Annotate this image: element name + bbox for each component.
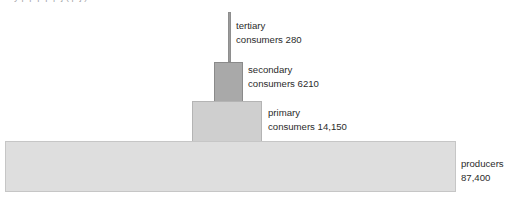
label-primary-line2: consumers 14,150	[268, 120, 347, 134]
label-secondary-line2: consumers 6210	[248, 77, 319, 91]
label-tertiary-line1: tertiary	[236, 19, 302, 33]
bar-producers	[5, 141, 456, 192]
cut-off-caption-text: y p p p p p j ( p j )	[14, 0, 514, 2]
label-producers-line2: 87,400	[461, 171, 504, 185]
label-producers: producers 87,400	[461, 157, 504, 184]
label-tertiary-line2: consumers 280	[236, 33, 302, 47]
bar-secondary-consumers	[214, 62, 243, 102]
bar-tertiary-consumers	[228, 12, 231, 62]
bar-primary-consumers	[192, 101, 262, 142]
label-primary-line1: primary	[268, 106, 347, 120]
label-secondary-line1: secondary	[248, 63, 319, 77]
label-secondary-consumers: secondary consumers 6210	[248, 63, 319, 90]
label-tertiary-consumers: tertiary consumers 280	[236, 19, 302, 46]
energy-pyramid-figure: y p p p p p j ( p j ) tertiary consumers…	[0, 0, 523, 200]
label-producers-line1: producers	[461, 157, 504, 171]
label-primary-consumers: primary consumers 14,150	[268, 106, 347, 133]
